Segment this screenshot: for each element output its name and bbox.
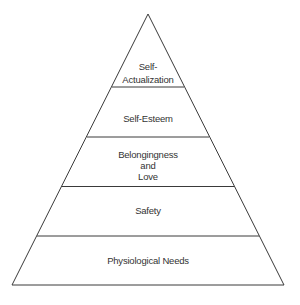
level-safety: Safety xyxy=(135,205,161,216)
level-label-line: Love xyxy=(138,171,158,182)
level-label-line: Self-Esteem xyxy=(123,113,173,124)
level-label-line: Belongingness xyxy=(118,149,178,160)
level-label-line: Self- xyxy=(139,61,158,72)
level-label-line: Actualization xyxy=(122,74,173,85)
level-label-line: Physiological Needs xyxy=(107,255,189,266)
level-self-esteem: Self-Esteem xyxy=(123,113,173,124)
level-physiological-needs: Physiological Needs xyxy=(107,255,189,266)
level-label-line: Safety xyxy=(135,205,161,216)
pyramid-diagram: Self- Actualization Self-Esteem Belongin… xyxy=(0,0,300,305)
level-label-line: and xyxy=(140,160,155,171)
level-belongingness-and-love: Belongingness and Love xyxy=(118,149,178,182)
level-self-actualization: Self- Actualization xyxy=(122,61,173,85)
